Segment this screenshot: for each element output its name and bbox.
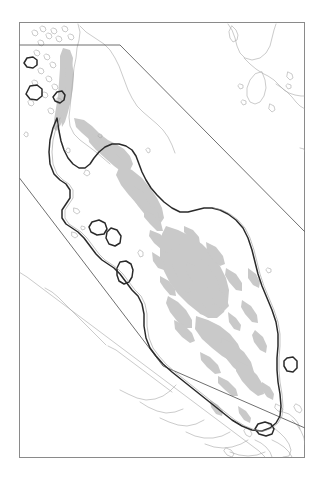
map-canvas xyxy=(0,0,325,477)
figure-root: Malay Peninsula xyxy=(0,0,325,477)
